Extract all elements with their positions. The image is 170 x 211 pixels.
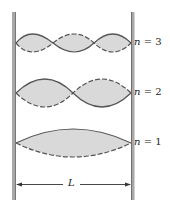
mode-label-n2: n = 2 [134, 86, 162, 97]
wave-mode-n3 [16, 34, 131, 52]
mode-label-n1: n = 1 [134, 136, 162, 147]
standing-wave-diagram [0, 0, 170, 211]
length-label: L [68, 177, 75, 188]
wave-mode-n1 [16, 129, 131, 157]
wave-mode-n2 [16, 79, 131, 107]
left-wall [12, 12, 16, 200]
mode-label-n3: n = 3 [134, 36, 162, 47]
